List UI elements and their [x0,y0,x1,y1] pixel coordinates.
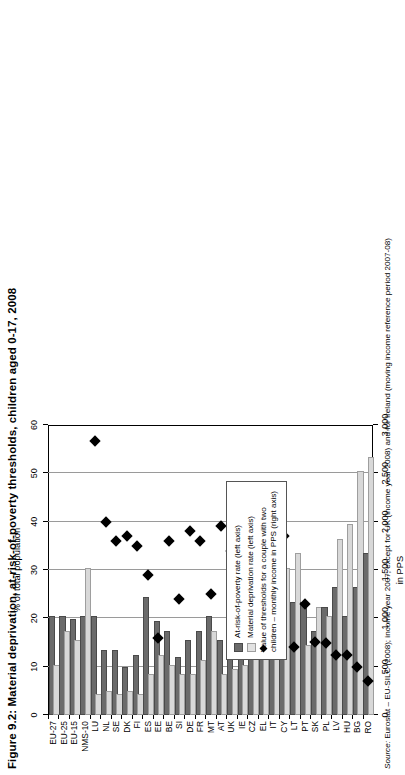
category-tick [226,715,227,719]
legend-label: Material deprivation rate (left axis) [246,489,256,638]
category-tick [132,715,133,719]
gridline [48,521,373,522]
category-label-el: EL [258,721,268,731]
category-tick [216,715,217,719]
category-label-eu-25: EU-25 [59,721,69,745]
category-label-ee: EE [153,721,163,732]
category-tick [363,715,364,719]
category-label-cz: CZ [247,721,257,732]
category-tick [58,715,59,719]
top-axis-tick [43,424,48,425]
category-label-ie: IE [237,721,247,729]
category-tick [352,715,353,719]
bottom-axis-tick-label: 1,000 [380,607,390,630]
category-label-be: BE [164,721,174,732]
category-tick [184,715,185,719]
square-light-icon [247,643,256,652]
category-tick [142,715,143,719]
category-tick [247,715,248,719]
threshold-marker-lu [90,436,101,447]
category-label-es: ES [143,721,153,732]
category-tick [331,715,332,719]
threshold-marker-at [215,521,226,532]
bottom-axis-tick-label: 500 [380,659,390,674]
threshold-marker-se [110,535,121,546]
category-label-uk: UK [226,721,236,733]
category-label-nl: NL [101,721,111,732]
category-label-lt: LT [289,721,299,730]
threshold-marker-si [173,593,184,604]
category-tick [195,715,196,719]
bottom-axis-tick-label: 1,500 [380,559,390,582]
category-tick [153,715,154,719]
legend-item-threshold-value: Value of thresholds for a couple with tw… [259,489,279,652]
category-tick [69,715,70,719]
category-tick [310,715,311,719]
legend-label: At-risk-of-poverty rate (left axis) [233,489,243,638]
source-note: Source: Eurostat – EU-SILC (2008); incom… [383,238,392,769]
threshold-marker-de [184,526,195,537]
category-label-si: SI [174,721,184,729]
category-label-fi: FI [132,721,142,728]
category-tick [90,715,91,719]
bottom-axis-tick [373,424,378,425]
threshold-marker-mt [205,589,216,600]
category-label-lv: LV [331,721,341,731]
top-axis-tick-label: 20 [29,613,39,623]
top-axis-tick-label: 50 [29,468,39,478]
top-axis-tick [43,569,48,570]
category-label-eu-15: EU-15 [69,721,79,745]
bottom-axis-tick-label: 2,500 [380,462,390,485]
category-label-pl: PL [321,721,331,731]
top-axis-tick [43,617,48,618]
bottom-axis-tick-label: 0 [380,712,390,717]
category-tick [279,715,280,719]
top-axis-tick-label: 40 [29,517,39,527]
category-label-eu-27: EU-27 [48,721,58,745]
threshold-marker-be [163,535,174,546]
category-tick [79,715,80,719]
category-label-dk: DK [122,721,132,733]
category-label-hu: HU [342,721,352,733]
category-tick [237,715,238,719]
top-axis-tick [43,472,48,473]
category-label-nms-10: NMS-10 [80,721,90,752]
top-axis-tick [43,666,48,667]
category-label-se: SE [111,721,121,732]
square-dark-icon [234,643,243,652]
category-label-at: AT [216,721,226,731]
category-tick [268,715,269,719]
category-tick [289,715,290,719]
category-tick [174,715,175,719]
category-tick [205,715,206,719]
source-label: Source: [383,741,392,769]
category-tick [342,715,343,719]
category-label-pt: PT [300,721,310,732]
category-label-sk: SK [310,721,320,732]
category-tick [100,715,101,719]
top-axis-tick-label: 30 [29,565,39,575]
chart-legend: At-risk-of-poverty rate (left axis) Mate… [226,481,287,660]
category-tick [111,715,112,719]
category-label-de: DE [185,721,195,733]
bottom-axis-tick-label: 3,000 [380,414,390,437]
legend-item-material-deprivation: Material deprivation rate (left axis) [246,489,256,652]
category-tick [163,715,164,719]
bottom-axis-tick-label: 2,000 [380,510,390,533]
category-tick [258,715,259,719]
category-label-ro: RO [363,721,373,734]
threshold-marker-es [142,569,153,580]
category-tick [48,715,49,719]
category-label-mt: MT [206,721,216,733]
category-label-it: IT [268,721,278,728]
threshold-marker-dk [121,531,132,542]
category-tick [121,715,122,719]
legend-item-at-risk-of-poverty: At-risk-of-poverty rate (left axis) [233,489,243,652]
bottom-axis-title: in PPS [395,556,405,584]
top-axis-title: % of total population [12,528,22,612]
gridline [48,569,373,570]
top-axis-tick [43,521,48,522]
top-axis-tick-label: 0 [29,712,39,717]
